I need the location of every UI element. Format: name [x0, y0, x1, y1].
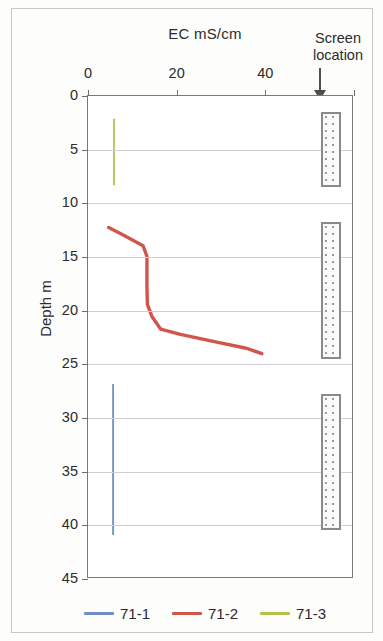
y-axis-label: 40: [36, 516, 78, 532]
legend-label: 71-1: [120, 605, 150, 622]
x-axis-label: 40: [245, 65, 285, 81]
gridline-horizontal: [88, 150, 352, 151]
legend-item-71-3[interactable]: 71-3: [260, 605, 326, 622]
y-axis-label: 35: [36, 463, 78, 479]
y-axis-label: 45: [36, 570, 78, 586]
y-axis-tick: [82, 311, 88, 312]
gridline-horizontal: [88, 472, 352, 473]
gridline-horizontal: [88, 525, 352, 526]
y-axis-tick: [82, 364, 88, 365]
legend-label: 71-2: [208, 605, 238, 622]
gridline-horizontal: [88, 257, 352, 258]
x-axis-tick: [354, 90, 355, 96]
gridline-horizontal: [88, 311, 352, 312]
gridline-horizontal: [88, 418, 352, 419]
x-axis-label: 0: [68, 65, 108, 81]
legend-swatch-icon: [84, 612, 114, 615]
y-axis-label: 20: [36, 302, 78, 318]
y-axis-label: 5: [36, 141, 78, 157]
screen-location-bar-71-2: [321, 222, 341, 359]
legend-item-71-2[interactable]: 71-2: [172, 605, 238, 622]
y-axis-tick: [82, 418, 88, 419]
legend-label: 71-3: [296, 605, 326, 622]
legend: 71-171-271-3: [60, 605, 350, 622]
chart-figure: EC mS/cm Screen location Depth m 0510152…: [0, 0, 383, 641]
x-axis-label: 20: [157, 65, 197, 81]
data-series-layer: [88, 96, 352, 577]
screen-location-bar-71-3: [321, 112, 341, 187]
screen-location-annotation: Screen location: [296, 30, 380, 64]
y-axis-label: 15: [36, 248, 78, 264]
y-axis-tick: [82, 203, 88, 204]
y-axis-label: 30: [36, 409, 78, 425]
y-axis-tick: [82, 257, 88, 258]
y-axis-tick: [82, 96, 88, 97]
x-axis-tick: [88, 90, 89, 96]
y-axis-tick: [82, 472, 88, 473]
y-axis-label: 10: [36, 194, 78, 210]
y-axis-label: 0: [36, 87, 78, 103]
legend-swatch-icon: [260, 612, 290, 615]
gridline-horizontal: [88, 203, 352, 204]
series-line-71-2: [109, 227, 262, 353]
legend-item-71-1[interactable]: 71-1: [84, 605, 150, 622]
x-axis-tick: [177, 90, 178, 96]
plot-area: 05101520253035404502040: [87, 95, 353, 578]
screen-location-line2: location: [296, 47, 380, 64]
y-axis-tick: [82, 579, 88, 580]
screen-location-bar-71-1: [321, 394, 341, 529]
y-axis-tick: [82, 525, 88, 526]
y-axis-tick: [82, 150, 88, 151]
y-axis-label: 25: [36, 355, 78, 371]
gridline-horizontal: [88, 364, 352, 365]
screen-location-line1: Screen: [315, 30, 361, 46]
x-axis-tick: [265, 90, 266, 96]
legend-swatch-icon: [172, 612, 202, 615]
top-axis-title: EC mS/cm: [120, 25, 290, 42]
